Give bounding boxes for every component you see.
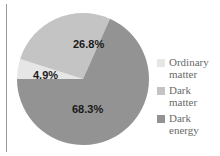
swatch-dark-energy <box>157 115 165 123</box>
label-ordinary-matter: 4.9% <box>33 69 58 81</box>
legend: Ordinarymatter Darkmatter Darkenergy <box>157 56 220 140</box>
legend-label-ordinary-2: matter <box>169 68 197 80</box>
label-dark-matter: 26.8% <box>73 38 104 50</box>
swatch-dark-matter <box>157 87 165 95</box>
legend-item-ordinary-matter: Ordinarymatter <box>157 56 220 80</box>
legend-label-dark-2: matter <box>169 96 197 108</box>
label-dark-energy: 68.3% <box>72 103 103 115</box>
legend-label-dark-e-2: energy <box>169 124 199 136</box>
legend-item-dark-matter: Darkmatter <box>157 84 220 108</box>
swatch-ordinary-matter <box>157 59 165 67</box>
legend-label-dark-e: Dark <box>169 112 191 124</box>
legend-label-ordinary: Ordinary <box>169 56 209 68</box>
legend-label-dark: Dark <box>169 84 191 96</box>
legend-item-dark-energy: Darkenergy <box>157 112 220 136</box>
